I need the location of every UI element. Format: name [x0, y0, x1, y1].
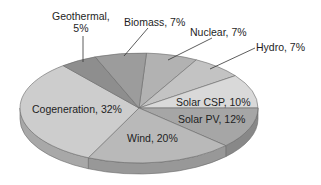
- label-cogeneration: Cogeneration, 32%: [32, 103, 122, 115]
- label-nuclear: Nuclear, 7%: [190, 26, 247, 38]
- label-geothermal-line2: 5%: [52, 22, 110, 34]
- label-hydro: Hydro, 7%: [256, 41, 305, 53]
- leader-line-biomass: [124, 28, 148, 56]
- label-biomass: Biomass, 7%: [124, 16, 185, 28]
- label-solar-pv: Solar PV, 12%: [178, 113, 245, 125]
- leader-line-hydro: [210, 48, 255, 69]
- label-wind: Wind, 20%: [127, 132, 178, 144]
- label-geothermal: Geothermal, 5%: [52, 10, 110, 34]
- label-geothermal-line1: Geothermal,: [52, 10, 110, 22]
- leader-line-nuclear: [168, 38, 212, 60]
- label-solar-csp: Solar CSP, 10%: [176, 96, 251, 108]
